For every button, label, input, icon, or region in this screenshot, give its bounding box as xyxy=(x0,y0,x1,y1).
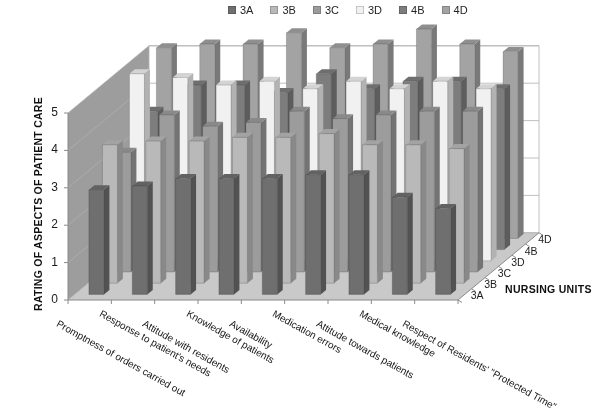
y-tick-label: 1 xyxy=(40,255,58,269)
y-tick-label: 0 xyxy=(40,292,58,306)
legend-label-4d: 4D xyxy=(454,4,468,16)
legend-label-3c: 3C xyxy=(325,4,339,16)
legend-label-4b: 4B xyxy=(411,4,424,16)
legend-item-3c[interactable]: 3C xyxy=(313,4,339,16)
legend-label-3d: 3D xyxy=(368,4,382,16)
legend-label-3b: 3B xyxy=(282,4,295,16)
legend-item-3a[interactable]: 3A xyxy=(228,4,253,16)
z-tick-label-3b: 3B xyxy=(484,278,497,290)
z-tick-label-3d: 3D xyxy=(511,256,524,268)
legend-item-3d[interactable]: 3D xyxy=(356,4,382,16)
legend-swatch-3b xyxy=(270,6,278,14)
legend-swatch-4b xyxy=(399,6,407,14)
legend-swatch-3a xyxy=(228,6,236,14)
z-axis-title: NURSING UNITS xyxy=(505,283,592,295)
legend-item-3b[interactable]: 3B xyxy=(270,4,295,16)
y-tick-label: 2 xyxy=(40,217,58,231)
y-tick-label: 5 xyxy=(40,105,58,119)
y-axis-title: RATING OF ASPECTS OF PATIENT CARE xyxy=(32,94,44,314)
chart-legend: 3A 3B 3C 3D 4B 4D xyxy=(228,4,468,16)
y-tick-label: 4 xyxy=(40,142,58,156)
legend-swatch-4d xyxy=(442,6,450,14)
legend-swatch-3d xyxy=(356,6,364,14)
z-tick-label-3a: 3A xyxy=(471,289,484,301)
z-tick-label-4b: 4B xyxy=(525,245,538,257)
z-tick-label-3c: 3C xyxy=(498,267,511,279)
y-tick-label: 3 xyxy=(40,180,58,194)
legend-label-3a: 3A xyxy=(240,4,253,16)
z-tick-label-4d: 4D xyxy=(538,233,551,245)
legend-item-4b[interactable]: 4B xyxy=(399,4,424,16)
legend-swatch-3c xyxy=(313,6,321,14)
legend-item-4d[interactable]: 4D xyxy=(442,4,468,16)
